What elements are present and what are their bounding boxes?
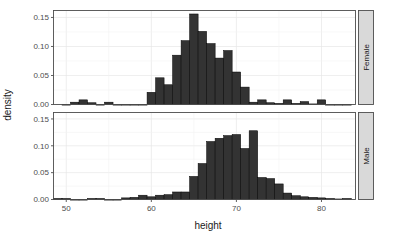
histogram-bar — [232, 135, 241, 200]
x-axis-tick-label: 60 — [147, 204, 156, 213]
histogram-bar — [275, 184, 284, 200]
y-axis-tick-label: 0.15 — [33, 13, 49, 22]
histogram-bar — [139, 195, 148, 199]
histogram-bar — [224, 51, 233, 105]
facet-panel-female: Female — [54, 11, 374, 106]
histogram-bar — [207, 44, 216, 105]
histogram-bar — [224, 136, 233, 200]
x-axis-title: height — [194, 220, 221, 231]
x-axis-tick-label: 50 — [62, 204, 71, 213]
histogram-bar — [215, 58, 224, 104]
histogram-bar — [283, 193, 292, 199]
histogram-bar — [249, 131, 258, 200]
histogram-plot: FemaleMale 0.000.050.100.150.000.050.100… — [0, 0, 396, 234]
y-axis-tick-label: 0.10 — [33, 42, 49, 51]
histogram-bar — [241, 87, 250, 104]
histogram-bar — [292, 196, 301, 200]
y-axis-tick-label: 0.05 — [33, 168, 49, 177]
x-axis-tick-label: 80 — [317, 204, 326, 213]
plot-canvas: FemaleMale 0.000.050.100.150.000.050.100… — [0, 0, 396, 234]
histogram-bar — [181, 192, 190, 200]
x-axis-tick-label: 70 — [232, 204, 241, 213]
facet-strip-label: Female — [362, 44, 371, 71]
y-axis-tick-label: 0.00 — [33, 100, 49, 109]
histogram-bar — [198, 31, 207, 104]
histogram-bar — [164, 195, 173, 200]
histogram-bar — [198, 164, 207, 200]
facet-panel-male: Male — [54, 113, 374, 201]
histogram-bar — [164, 85, 173, 105]
histogram-bar — [156, 78, 165, 105]
histogram-bar — [266, 179, 275, 200]
histogram-bar — [173, 192, 182, 200]
histogram-bar — [181, 41, 190, 105]
y-axis-tick-label: 0.05 — [33, 71, 49, 80]
histogram-bar — [190, 14, 199, 105]
histogram-bar — [241, 148, 250, 199]
y-axis-tick-label: 0.15 — [33, 115, 49, 124]
histogram-bar — [258, 100, 267, 105]
histogram-bar — [147, 92, 156, 104]
histogram-bar — [190, 176, 199, 199]
histogram-bar — [317, 100, 326, 105]
histogram-bar — [173, 55, 182, 104]
facet-strip-label: Male — [362, 147, 371, 165]
histogram-bar — [283, 100, 292, 105]
y-axis-tick-label: 0.10 — [33, 142, 49, 151]
histogram-bar — [258, 177, 267, 199]
histogram-bar — [232, 72, 241, 104]
histogram-bar — [156, 195, 165, 199]
y-axis-tick-label: 0.00 — [33, 195, 49, 204]
y-axis-title: density — [2, 89, 13, 121]
histogram-bar — [207, 142, 216, 200]
histogram-bar — [215, 138, 224, 199]
histogram-bar — [79, 100, 88, 105]
